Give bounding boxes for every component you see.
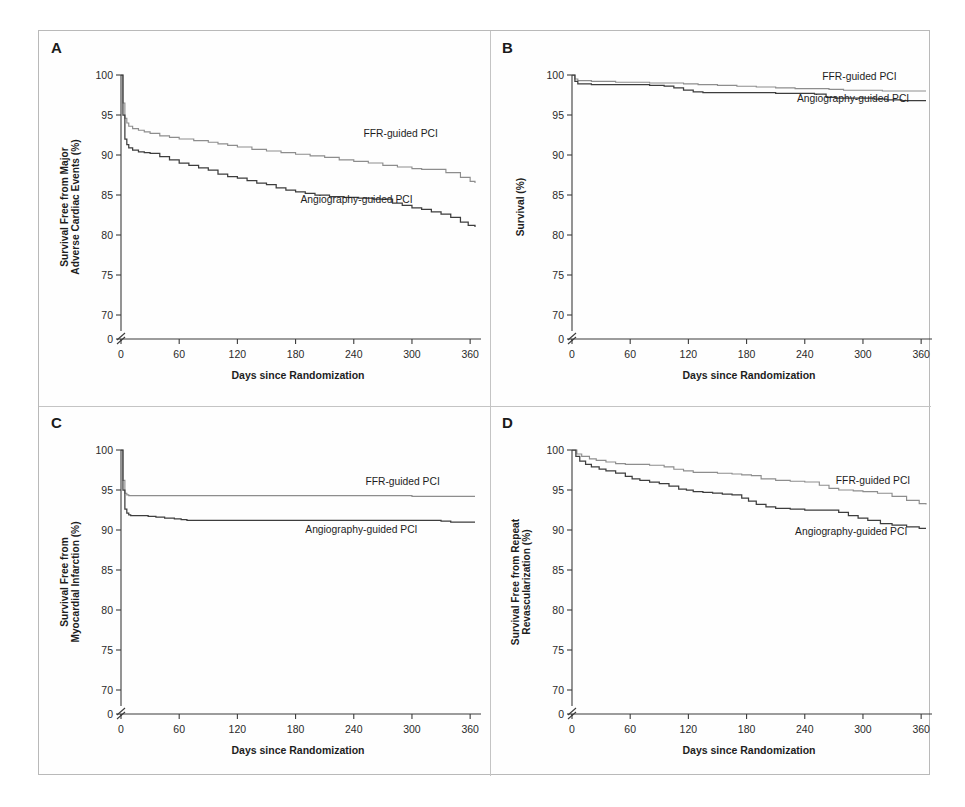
svg-text:300: 300 xyxy=(854,723,872,735)
svg-text:75: 75 xyxy=(101,644,113,656)
svg-text:60: 60 xyxy=(624,723,636,735)
series-label-ffr: FFR-guided PCI xyxy=(365,476,439,487)
svg-text:90: 90 xyxy=(101,149,113,161)
svg-text:75: 75 xyxy=(101,269,113,281)
svg-text:85: 85 xyxy=(552,189,564,201)
svg-text:85: 85 xyxy=(552,564,564,576)
svg-text:90: 90 xyxy=(552,524,564,536)
svg-text:0: 0 xyxy=(569,723,575,735)
panel-c-plot: 0707580859095100060120180240300360Days s… xyxy=(39,406,490,781)
panel-letter-d: D xyxy=(502,414,513,431)
svg-text:Revascularization (%): Revascularization (%) xyxy=(521,529,532,634)
svg-text:85: 85 xyxy=(101,189,113,201)
curve-angiography-guided-pci xyxy=(572,450,926,528)
svg-text:0: 0 xyxy=(558,708,564,720)
panel-d-plot: 0707580859095100060120180240300360Days s… xyxy=(490,406,941,781)
panel-letter-a: A xyxy=(51,39,62,56)
svg-text:0: 0 xyxy=(107,708,113,720)
curve-angiography-guided-pci xyxy=(121,75,475,227)
svg-text:95: 95 xyxy=(101,109,113,121)
svg-text:240: 240 xyxy=(345,348,363,360)
svg-text:Days since Randomization: Days since Randomization xyxy=(682,369,815,381)
svg-text:90: 90 xyxy=(552,149,564,161)
svg-text:70: 70 xyxy=(552,684,564,696)
svg-text:180: 180 xyxy=(287,348,305,360)
panel-b-plot: 0707580859095100060120180240300360Days s… xyxy=(490,31,941,406)
svg-text:70: 70 xyxy=(101,309,113,321)
svg-text:300: 300 xyxy=(403,348,421,360)
svg-text:Days since Randomization: Days since Randomization xyxy=(682,744,815,756)
svg-text:120: 120 xyxy=(680,348,698,360)
svg-text:100: 100 xyxy=(95,444,113,456)
svg-text:0: 0 xyxy=(118,723,124,735)
svg-text:100: 100 xyxy=(95,69,113,81)
svg-text:0: 0 xyxy=(107,333,113,345)
svg-text:Days since Randomization: Days since Randomization xyxy=(231,369,364,381)
svg-text:360: 360 xyxy=(461,348,479,360)
figure-frame: A 0707580859095100060120180240300360Days… xyxy=(38,30,930,775)
panel-b: B 0707580859095100060120180240300360Days… xyxy=(490,31,941,406)
svg-text:300: 300 xyxy=(854,348,872,360)
svg-text:Survival Free from: Survival Free from xyxy=(59,537,70,626)
svg-text:80: 80 xyxy=(101,604,113,616)
svg-text:100: 100 xyxy=(546,444,564,456)
svg-text:Survival Free from Major: Survival Free from Major xyxy=(59,147,70,266)
svg-text:80: 80 xyxy=(552,604,564,616)
svg-text:360: 360 xyxy=(912,723,930,735)
svg-text:180: 180 xyxy=(287,723,305,735)
svg-text:120: 120 xyxy=(229,348,247,360)
svg-text:95: 95 xyxy=(552,484,564,496)
svg-text:Days since Randomization: Days since Randomization xyxy=(231,744,364,756)
series-label-ffr: FFR-guided PCI xyxy=(836,475,910,486)
svg-text:240: 240 xyxy=(796,348,814,360)
svg-text:Survival Free from Repeat: Survival Free from Repeat xyxy=(510,518,521,645)
svg-text:90: 90 xyxy=(101,524,113,536)
svg-text:120: 120 xyxy=(680,723,698,735)
svg-text:Adverse Cardiac Events (%): Adverse Cardiac Events (%) xyxy=(70,139,81,274)
svg-text:0: 0 xyxy=(558,333,564,345)
curve-ffr-guided-pci xyxy=(121,450,475,496)
series-label-angiography: Angiography-guided PCI xyxy=(300,194,412,205)
panel-a: A 0707580859095100060120180240300360Days… xyxy=(39,31,490,406)
svg-text:70: 70 xyxy=(101,684,113,696)
svg-text:180: 180 xyxy=(738,348,756,360)
series-label-angiography: Angiography-guided PCI xyxy=(795,526,907,537)
svg-text:360: 360 xyxy=(461,723,479,735)
series-label-ffr: FFR-guided PCI xyxy=(822,71,896,82)
svg-text:240: 240 xyxy=(796,723,814,735)
svg-text:180: 180 xyxy=(738,723,756,735)
svg-text:60: 60 xyxy=(173,348,185,360)
svg-text:75: 75 xyxy=(552,269,564,281)
svg-text:75: 75 xyxy=(552,644,564,656)
panel-d: D 0707580859095100060120180240300360Days… xyxy=(490,406,941,781)
svg-text:100: 100 xyxy=(546,69,564,81)
svg-text:80: 80 xyxy=(552,229,564,241)
svg-text:300: 300 xyxy=(403,723,421,735)
panel-c: C 0707580859095100060120180240300360Days… xyxy=(39,406,490,781)
svg-text:360: 360 xyxy=(912,348,930,360)
series-label-angiography: Angiography-guided PCI xyxy=(797,93,909,104)
series-label-angiography: Angiography-guided PCI xyxy=(305,524,417,535)
svg-text:Survival (%): Survival (%) xyxy=(515,178,526,236)
panel-a-plot: 0707580859095100060120180240300360Days s… xyxy=(39,31,490,406)
svg-text:240: 240 xyxy=(345,723,363,735)
series-label-ffr: FFR-guided PCI xyxy=(363,128,437,139)
svg-text:Myocardial Infarction (%): Myocardial Infarction (%) xyxy=(70,521,81,642)
svg-text:95: 95 xyxy=(101,484,113,496)
svg-text:70: 70 xyxy=(552,309,564,321)
panel-letter-b: B xyxy=(502,39,513,56)
svg-text:120: 120 xyxy=(229,723,247,735)
svg-text:95: 95 xyxy=(552,109,564,121)
svg-text:80: 80 xyxy=(101,229,113,241)
svg-text:0: 0 xyxy=(569,348,575,360)
panel-letter-c: C xyxy=(51,414,62,431)
svg-text:60: 60 xyxy=(624,348,636,360)
svg-text:0: 0 xyxy=(118,348,124,360)
svg-text:60: 60 xyxy=(173,723,185,735)
svg-text:85: 85 xyxy=(101,564,113,576)
